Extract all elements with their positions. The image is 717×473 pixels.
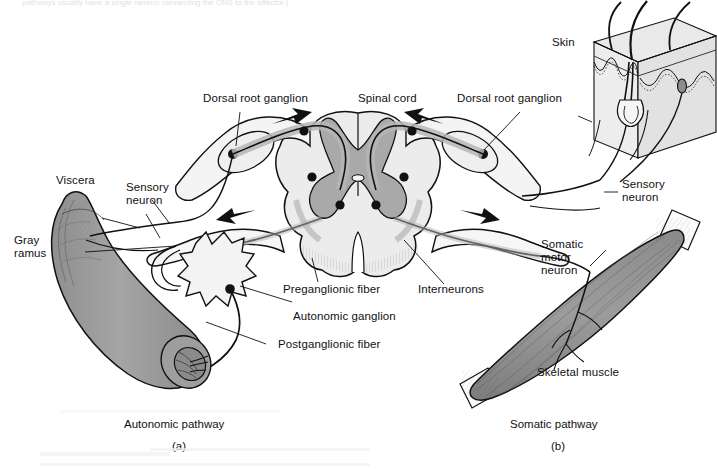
label-autonomic-ganglion: Autonomic ganglion <box>293 310 396 323</box>
scan-artifact <box>40 452 170 456</box>
label-viscera: Viscera <box>56 174 95 187</box>
arrow-efferent-right <box>460 208 500 224</box>
label-spinal-cord: Spinal cord <box>358 92 417 105</box>
label-postganglionic-fiber: Postganglionic fiber <box>278 338 380 351</box>
anatomy-illustration <box>0 0 717 473</box>
label-sensory-neuron-left: Sensory neuron <box>126 181 169 207</box>
figure-canvas: pathways usually have a single neuron co… <box>0 0 717 473</box>
scan-artifact <box>40 463 370 466</box>
caption-panel-b-letter: (b) <box>551 440 565 452</box>
label-skin: Skin <box>552 36 575 49</box>
label-dorsal-root-ganglion-left: Dorsal root ganglion <box>203 92 308 105</box>
scan-artifact <box>60 410 280 413</box>
label-preganglionic-fiber: Preganglionic fiber <box>283 283 380 296</box>
label-skeletal-muscle: Skeletal muscle <box>537 366 619 379</box>
label-somatic-motor-neuron: Somatic motor neuron <box>541 238 583 277</box>
label-gray-ramus: Gray ramus <box>14 234 46 260</box>
skin-block-illustration <box>589 1 716 182</box>
label-dorsal-root-ganglion-right: Dorsal root ganglion <box>457 92 562 105</box>
label-sensory-neuron-right: Sensory neuron <box>622 178 665 204</box>
caption-panel-a: Autonomic pathway <box>124 418 224 430</box>
arrow-efferent-left <box>216 208 256 224</box>
scan-artifact <box>150 448 370 451</box>
caption-panel-b: Somatic pathway <box>510 418 598 430</box>
label-interneurons: Interneurons <box>418 283 484 296</box>
